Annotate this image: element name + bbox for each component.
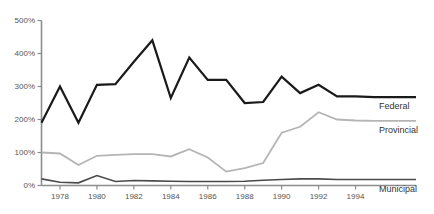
series-line-provincial	[42, 112, 375, 171]
y-tick-label: 100%	[1, 148, 35, 157]
x-tick-label: 1990	[265, 192, 299, 201]
x-tick-label: 1982	[117, 192, 151, 201]
data-series-group	[42, 40, 375, 183]
legend-label-provincial: Provincial	[379, 125, 418, 135]
y-tick-label: 200%	[1, 115, 35, 124]
series-line-municipal	[42, 176, 375, 183]
x-tick-label: 1994	[339, 192, 373, 201]
legend-label-federal: Federal	[379, 101, 410, 111]
y-tick-label: 400%	[1, 49, 35, 58]
x-tick-label: 1984	[154, 192, 188, 201]
line-chart: 0%100%200%300%400%500% 19781980198219841…	[0, 0, 434, 214]
series-line-federal	[42, 40, 375, 123]
legend-label-municipal: Municipal	[379, 184, 417, 194]
plot-area	[0, 0, 434, 214]
x-tick-label: 1992	[302, 192, 336, 201]
x-tick-label: 1980	[80, 192, 114, 201]
axis-group	[38, 21, 417, 190]
x-tick-label: 1986	[191, 192, 225, 201]
y-tick-label: 0%	[1, 181, 35, 190]
y-tick-label: 500%	[1, 16, 35, 25]
x-tick-label: 1988	[228, 192, 262, 201]
x-tick-label: 1978	[43, 192, 77, 201]
y-tick-label: 300%	[1, 82, 35, 91]
